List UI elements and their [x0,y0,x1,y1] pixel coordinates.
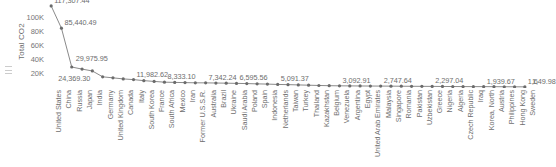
data-point-marker[interactable] [80,68,83,71]
data-point-marker[interactable] [50,4,53,7]
x-axis-category-label: Former U.S.S.R. [198,90,207,142]
x-axis-category-label: Netherlands [281,90,290,128]
data-point-marker[interactable] [173,81,176,84]
x-axis-category-text: Algeria [456,90,465,112]
data-point-marker[interactable] [204,81,207,84]
x-axis-category-text: India [95,90,104,105]
x-axis-category-text: Kazakhstan [322,90,331,127]
x-axis-category-text: China [64,90,73,109]
data-point-marker[interactable] [91,69,94,72]
data-point-marker[interactable] [214,81,217,84]
x-axis-category-label: Brazil [219,90,228,108]
data-point-marker[interactable] [379,84,382,87]
y-axis-tick-labels: 20K40K60K80K100K [20,0,44,88]
x-axis-category-label: Taiwan [291,90,300,112]
x-axis-category-label: Mexico [178,90,187,112]
x-axis-category-label: Singapore [394,90,403,122]
x-axis-category-text: Greece [435,90,444,113]
data-point-marker[interactable] [183,81,186,84]
drag-handle-icon[interactable] [5,66,12,74]
x-axis-category-text: Russia [75,90,84,112]
data-point-marker[interactable] [122,77,125,80]
x-axis-category-label: Uzbekistan [425,90,434,125]
data-point-marker[interactable] [400,85,403,88]
x-axis-category-text: South Africa [167,90,176,128]
x-axis-category-text: Japan [85,90,94,109]
data-point-marker[interactable] [307,84,310,87]
data-value-label: 1,939.67 [487,78,515,86]
data-point-marker[interactable] [142,79,145,82]
data-value-label: 5,091.37 [281,75,309,83]
data-point-marker[interactable] [194,81,197,84]
x-axis-category-text: Canada [126,90,135,115]
data-point-marker[interactable] [286,83,289,86]
x-axis-category-text: Iraq [476,90,485,102]
data-point-marker[interactable] [245,82,248,85]
data-point-marker[interactable] [338,84,341,87]
x-axis-category-text: Ukraine [229,90,238,114]
x-axis-category-text: Thailand [312,90,321,117]
x-axis-category-text: Mexico [178,90,187,112]
data-point-marker[interactable] [235,82,238,85]
data-value-label: 11,982.62 [137,71,168,79]
data-value-label: 117,307.44 [54,0,89,5]
data-point-marker[interactable] [101,75,104,78]
x-axis-category-label: Algeria [456,90,465,112]
data-point-marker[interactable] [225,82,228,85]
data-point-marker[interactable] [163,81,166,84]
x-axis-category-label: Egypt [363,90,372,108]
data-point-marker[interactable] [317,84,320,87]
data-point-marker[interactable] [461,85,464,88]
data-point-marker[interactable] [266,82,269,85]
x-axis-category-label: Malaysia [384,90,393,118]
x-axis-category-label: Kazakhstan [322,90,331,127]
x-axis-category-label: Hong Kong [518,90,527,126]
x-axis-category-label: Belgium [332,90,341,116]
x-axis-category-label: Thailand [312,90,321,117]
data-point-marker[interactable] [431,85,434,88]
x-axis-category-text: Czech Republic [466,90,475,140]
data-point-marker[interactable] [369,84,372,87]
data-point-marker[interactable] [328,84,331,87]
x-axis-category-labels: United StatesChinaRussiaJapanIndiaGerman… [46,90,530,167]
data-point-marker[interactable] [482,85,485,88]
x-axis-category-text: Singapore [394,90,403,122]
x-axis-category-text: South Korea [147,90,156,129]
data-point-marker[interactable] [358,84,361,87]
x-axis-category-label: Romania [404,90,413,118]
x-axis-category-text: Pakistan [415,90,424,117]
data-point-marker[interactable] [132,78,135,81]
data-point-marker[interactable] [276,83,279,86]
x-axis-category-text: Former U.S.S.R. [198,90,207,142]
x-axis-category-text: United States [54,90,63,133]
data-point-marker[interactable] [153,80,156,83]
x-axis-category-label: Germany [106,90,115,119]
data-point-marker[interactable] [60,27,63,30]
data-point-marker[interactable] [297,83,300,86]
data-point-marker[interactable] [256,82,259,85]
x-axis-category-text: France [157,90,166,112]
x-axis-category-label: France [157,90,166,112]
data-point-marker[interactable] [111,76,114,79]
y-axis-tick: 80K [31,28,44,36]
x-axis-category-label: Nigeria [445,90,454,112]
x-axis-category-label: South Africa [167,90,176,128]
data-point-marker[interactable] [420,85,423,88]
x-axis-category-label: Ukraine [229,90,238,114]
x-axis-category-label: Turkey [301,90,310,111]
x-axis-category-text: Netherlands [281,90,290,128]
data-value-label: 2,297.04 [435,77,463,85]
data-point-marker[interactable] [472,85,475,88]
data-point-marker[interactable] [410,85,413,88]
data-point-marker[interactable] [523,85,526,88]
data-point-marker[interactable] [70,65,73,68]
x-axis-category-text: Brazil [219,90,228,108]
x-axis-category-text: Poland [250,90,259,112]
x-axis-category-label: Poland [250,90,259,112]
x-axis-category-text: United Arab Emirates [373,90,382,157]
x-axis-category-label: China [64,90,73,109]
x-axis-category-label: Sweden [528,90,537,116]
x-axis-category-text: Australia [209,90,218,118]
x-axis-category-label: Greece [435,90,444,113]
x-axis-category-text: Malaysia [384,90,393,118]
